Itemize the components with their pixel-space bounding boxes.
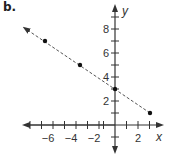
data-point: [78, 63, 82, 67]
y-tick-label: 6: [103, 47, 109, 59]
x-axis-label: x: [155, 130, 163, 144]
data-point: [113, 87, 117, 91]
x-axis: −6 −4 −2 2 x: [26, 121, 163, 144]
y-tick-label: 2: [103, 95, 109, 107]
data-point: [43, 39, 47, 43]
coordinate-plane: −6 −4 −2 2 x 2 4 6 8 y: [0, 0, 175, 155]
y-tick-label: 8: [103, 23, 109, 35]
x-tick-label: −2: [88, 132, 101, 144]
x-tick-label: 2: [135, 132, 141, 144]
x-tick-label: −4: [65, 132, 78, 144]
y-axis: 2 4 6 8 y: [103, 4, 129, 150]
y-axis-label: y: [121, 4, 129, 18]
data-point: [148, 111, 152, 115]
x-tick-label: −6: [42, 132, 55, 144]
